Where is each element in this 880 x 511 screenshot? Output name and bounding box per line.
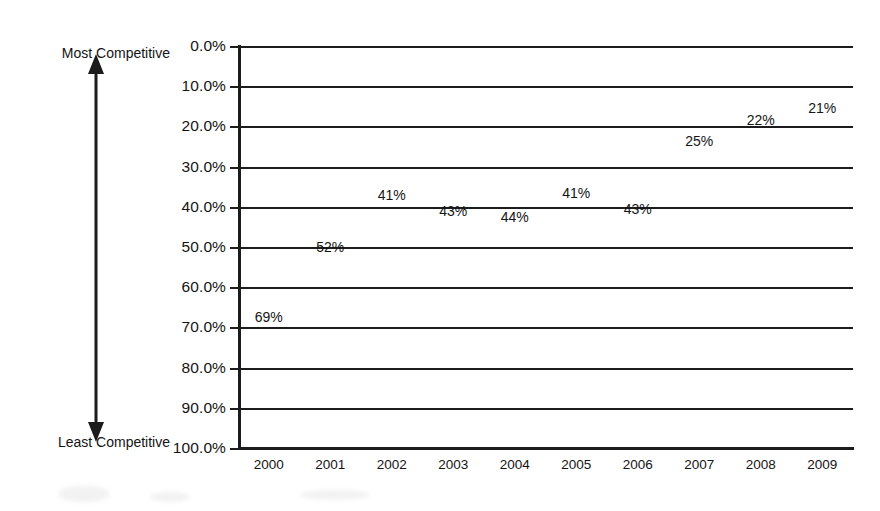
x-axis-tick-label: 2006 [607, 457, 669, 472]
scan-artifact [300, 490, 370, 500]
scan-artifact [58, 486, 110, 502]
y-axis-tick-label: 10.0% [106, 77, 226, 95]
y-axis-tick-label: 60.0% [106, 278, 226, 296]
gridline [238, 287, 853, 289]
gridline [238, 46, 853, 48]
gridline [238, 368, 853, 370]
x-axis-tick-label: 2004 [484, 457, 546, 472]
y-axis-tick-label: 50.0% [106, 238, 226, 256]
x-axis-tick-label: 2008 [730, 457, 792, 472]
data-value-label: 52% [299, 239, 361, 255]
x-axis-tick-label: 2002 [361, 457, 423, 472]
x-axis-tick-label: 2000 [238, 457, 300, 472]
x-axis-tick-label: 2003 [422, 457, 484, 472]
y-axis-tick-label: 40.0% [106, 198, 226, 216]
data-value-label: 43% [422, 203, 484, 219]
y-axis-tick-mark [230, 448, 239, 450]
x-axis-tick-labels: 2000200120022003200420052006200720082009 [238, 457, 853, 479]
x-axis-tick-label: 2005 [545, 457, 607, 472]
plot-area: 69%52%41%43%44%41%43%25%22%21% [238, 46, 853, 448]
data-value-label: 69% [238, 309, 300, 325]
gridline [238, 167, 853, 169]
data-value-label: 25% [668, 133, 730, 149]
y-axis-tick-label: 70.0% [106, 318, 226, 336]
data-value-label: 22% [730, 112, 792, 128]
chart-page: Most Competitive Least Competitive 0.0%1… [0, 0, 880, 511]
y-axis-tick-labels: 0.0%10.0%20.0%30.0%40.0%50.0%60.0%70.0%8… [100, 0, 226, 511]
data-value-label: 21% [791, 100, 853, 116]
data-value-label: 41% [545, 185, 607, 201]
data-value-label: 44% [484, 209, 546, 225]
y-axis-tick-label: 100.0% [106, 439, 226, 457]
data-value-label: 41% [361, 187, 423, 203]
data-value-label: 43% [607, 201, 669, 217]
x-axis-tick-label: 2001 [299, 457, 361, 472]
x-axis-tick-label: 2007 [668, 457, 730, 472]
gridline [238, 408, 853, 410]
y-axis-tick-label: 80.0% [106, 359, 226, 377]
x-axis-tick-label: 2009 [791, 457, 853, 472]
y-axis-tick-label: 0.0% [106, 37, 226, 55]
y-axis-tick-label: 90.0% [106, 399, 226, 417]
y-axis-tick-label: 20.0% [106, 117, 226, 135]
gridline [238, 327, 853, 329]
y-axis-tick-label: 30.0% [106, 158, 226, 176]
gridline [238, 86, 853, 88]
scan-artifact [150, 492, 190, 502]
